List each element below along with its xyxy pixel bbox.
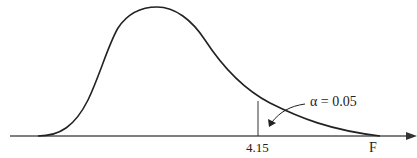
alpha-label: α = 0.05 [310, 94, 357, 110]
density-curve [38, 7, 380, 136]
axis-arrow-icon [406, 132, 417, 140]
critical-value-label: 4.15 [246, 140, 269, 156]
x-axis-label: F [369, 140, 377, 156]
f-distribution-diagram [0, 0, 417, 158]
arrow-head-icon [268, 119, 276, 127]
